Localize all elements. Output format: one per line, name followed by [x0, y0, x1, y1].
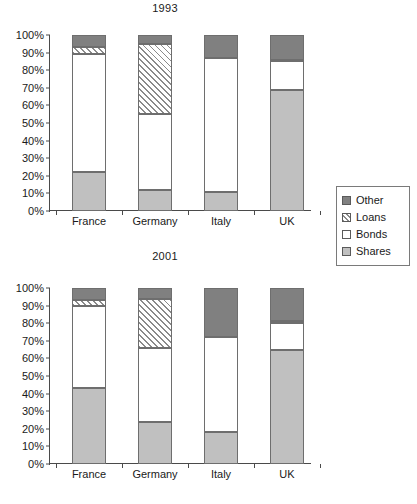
bar-segment-other — [72, 35, 106, 47]
bar-segment-other — [138, 288, 172, 299]
y-axis-tick-mark — [46, 140, 50, 141]
y-axis-tick-label: 60% — [22, 99, 49, 111]
x-axis-label-germany: Germany — [120, 468, 190, 480]
x-axis-label-france: France — [54, 468, 124, 480]
y-axis-tick-mark — [46, 123, 50, 124]
chart-legend: OtherLoansBondsShares — [336, 186, 410, 266]
y-axis-tick-label: 50% — [22, 117, 49, 129]
y-axis-tick-label: 70% — [22, 82, 49, 94]
y-axis-tick-mark — [46, 376, 50, 377]
bar-segment-other — [270, 288, 304, 321]
x-axis-label-uk: UK — [252, 215, 322, 227]
bar-segment-other — [204, 35, 238, 58]
legend-swatch-loans — [342, 213, 351, 222]
y-axis-tick-mark — [46, 52, 50, 53]
plot-area-1993: 0%10%20%30%40%50%60%70%80%90%100%FranceG… — [49, 35, 311, 211]
bar-segment-other — [72, 288, 106, 300]
bar-segment-other — [204, 288, 238, 337]
chart-panel-1993: 1993 0%10%20%30%40%50%60%70%80%90%100%Fr… — [0, 0, 330, 248]
y-axis-tick-mark — [46, 193, 50, 194]
y-axis-tick-label: 100% — [16, 282, 49, 294]
y-axis-tick-mark — [46, 211, 50, 212]
bar-segment-shares — [72, 388, 106, 464]
y-axis-tick-mark — [46, 340, 50, 341]
bar-segment-loans — [72, 300, 106, 305]
bar-segment-shares — [204, 432, 238, 464]
legend-label: Bonds — [356, 229, 387, 240]
bar-segment-loans — [138, 299, 172, 348]
bar-segment-shares — [72, 172, 106, 211]
legend-item-bonds: Bonds — [342, 226, 405, 243]
x-axis-tick-mark — [320, 211, 321, 215]
bar-segment-loans — [138, 44, 172, 114]
bar-segment-loans — [270, 59, 304, 61]
bar-segment-shares — [138, 190, 172, 211]
y-axis-tick-label: 10% — [22, 187, 49, 199]
x-axis-label-uk: UK — [252, 468, 322, 480]
bar-segment-bonds — [72, 306, 106, 389]
y-axis-line — [49, 35, 50, 212]
legend-item-other: Other — [342, 192, 405, 209]
legend-label: Loans — [356, 212, 386, 223]
y-axis-tick-mark — [46, 358, 50, 359]
y-axis-tick-mark — [46, 175, 50, 176]
y-axis-tick-label: 60% — [22, 352, 49, 364]
legend-swatch-other — [342, 196, 351, 205]
chart-panel-2001: 2001 0%10%20%30%40%50%60%70%80%90%100%Fr… — [0, 248, 330, 504]
bar-segment-other — [138, 35, 172, 44]
legend-item-shares: Shares — [342, 243, 405, 260]
y-axis-tick-mark — [46, 446, 50, 447]
bar-segment-shares — [270, 90, 304, 211]
bar-segment-bonds — [270, 323, 304, 349]
y-axis-tick-label: 70% — [22, 335, 49, 347]
x-axis-label-italy: Italy — [186, 468, 256, 480]
bar-segment-loans — [72, 47, 106, 54]
legend-item-loans: Loans — [342, 209, 405, 226]
y-axis-tick-mark — [46, 105, 50, 106]
x-axis-tick-mark — [56, 211, 57, 215]
legend-label: Other — [356, 195, 384, 206]
y-axis-tick-mark — [46, 393, 50, 394]
y-axis-tick-mark — [46, 87, 50, 88]
legend-swatch-shares — [342, 247, 351, 256]
legend-swatch-bonds — [342, 230, 351, 239]
bar-segment-bonds — [72, 54, 106, 172]
bar-segment-shares — [204, 192, 238, 211]
plot-area-2001: 0%10%20%30%40%50%60%70%80%90%100%FranceG… — [49, 288, 311, 464]
bar-segment-bonds — [270, 61, 304, 89]
x-axis-label-france: France — [54, 215, 124, 227]
chart-title-1993: 1993 — [0, 2, 330, 14]
x-axis-label-germany: Germany — [120, 215, 190, 227]
y-axis-tick-mark — [46, 464, 50, 465]
bar-segment-other — [270, 35, 304, 60]
y-axis-line — [49, 288, 50, 465]
y-axis-tick-label: 20% — [22, 423, 49, 435]
y-axis-tick-label: 80% — [22, 317, 49, 329]
bar-segment-bonds — [204, 337, 238, 432]
y-axis-tick-mark — [46, 323, 50, 324]
y-axis-tick-label: 40% — [22, 135, 49, 147]
bar-segment-bonds — [204, 58, 238, 192]
y-axis-tick-mark — [46, 411, 50, 412]
x-axis-tick-mark — [320, 464, 321, 468]
y-axis-tick-label: 90% — [22, 300, 49, 312]
y-axis-tick-label: 10% — [22, 440, 49, 452]
bar-segment-loans — [270, 321, 304, 323]
chart-title-2001: 2001 — [0, 250, 330, 262]
bar-segment-bonds — [138, 114, 172, 190]
y-axis-tick-label: 100% — [16, 29, 49, 41]
y-axis-tick-label: 80% — [22, 64, 49, 76]
y-axis-tick-label: 30% — [22, 152, 49, 164]
x-axis-label-italy: Italy — [186, 215, 256, 227]
bar-segment-shares — [138, 422, 172, 464]
y-axis-tick-mark — [46, 35, 50, 36]
y-axis-tick-mark — [46, 288, 50, 289]
y-axis-tick-label: 50% — [22, 370, 49, 382]
y-axis-tick-label: 30% — [22, 405, 49, 417]
bar-segment-bonds — [138, 348, 172, 422]
y-axis-tick-mark — [46, 305, 50, 306]
x-axis-tick-mark — [56, 464, 57, 468]
y-axis-tick-label: 90% — [22, 47, 49, 59]
y-axis-tick-mark — [46, 70, 50, 71]
y-axis-tick-mark — [46, 158, 50, 159]
